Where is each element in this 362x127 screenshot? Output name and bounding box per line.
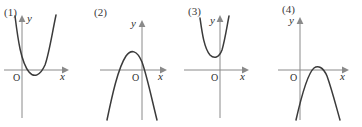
panel-4-y-axis-label: y (288, 14, 294, 26)
panel-2-x-axis-label: x (157, 70, 163, 82)
panel-4-y-axis-arrow (297, 17, 304, 24)
graph-panel-1: (1) y x O (0, 0, 90, 127)
panel-3-y-axis-arrow (217, 15, 224, 22)
panel-1-y-axis-label: y (26, 12, 32, 24)
panel-1-origin-label: O (13, 72, 20, 83)
panel-4-x-axis-label: x (339, 70, 345, 82)
panel-2-plot: y x O (90, 0, 180, 127)
panel-2-y-axis-arrow (139, 20, 146, 27)
graph-panel-4: (4) y x O (270, 0, 362, 127)
panel-2-origin-label: O (132, 72, 139, 83)
parabola-graphs-figure: (1) y x O (2) y x O (0, 0, 362, 127)
panel-3-plot: y x O (180, 0, 270, 127)
panel-1-x-axis-label: x (59, 70, 65, 82)
panel-2-parabola (107, 52, 157, 120)
panel-2-y-axis-label: y (130, 17, 136, 29)
panel-1-parabola (15, 15, 56, 75)
panel-4-plot: y x O (270, 0, 362, 127)
panel-1-number-label: (1) (4, 6, 17, 18)
panel-4-origin-label: O (290, 72, 297, 83)
panel-3-x-axis-label: x (239, 70, 245, 82)
panel-3-y-axis-label: y (209, 14, 215, 26)
panel-1-y-axis-arrow (19, 15, 26, 22)
graph-panel-3: (3) y x O (180, 0, 270, 127)
panel-3-origin-label: O (211, 72, 218, 83)
panel-3-number-label: (3) (188, 5, 201, 17)
panel-2-number-label: (2) (94, 6, 107, 18)
panel-4-parabola (296, 67, 340, 120)
panel-1-plot: y x O (0, 0, 90, 127)
graph-panel-2: (2) y x O (90, 0, 180, 127)
panel-4-number-label: (4) (282, 3, 295, 15)
